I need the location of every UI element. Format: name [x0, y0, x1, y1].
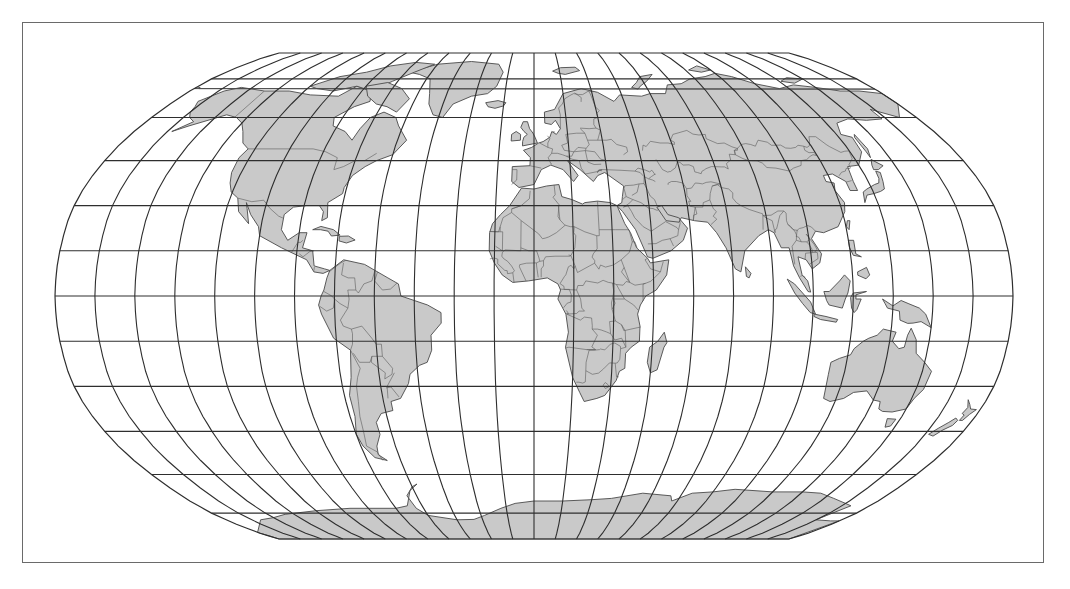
landmass-novaya-zemlya	[632, 74, 653, 89]
landmass-south-america	[319, 260, 442, 461]
landmass-ireland	[511, 132, 520, 142]
landmass-new-zealand-north	[959, 400, 976, 421]
landmass-taiwan	[846, 221, 850, 230]
graticule-layer	[55, 53, 1013, 539]
landmass-madagascar	[647, 332, 667, 373]
landmass-great-britain	[521, 122, 538, 146]
landmass-borneo	[824, 275, 850, 308]
world-map[interactable]	[0, 0, 1070, 589]
landmass-svalbard	[553, 67, 580, 74]
landmass-new-guinea	[883, 299, 932, 328]
landmass-tasmania	[885, 419, 896, 428]
landmass-philippines-mindanao	[858, 267, 870, 278]
landmass-sri-lanka	[745, 267, 751, 278]
landmass-java	[814, 314, 838, 322]
landmass-sumatra	[787, 279, 815, 314]
landmass-japan	[863, 171, 884, 203]
landmass-baffin-island	[366, 83, 409, 113]
landmass-new-zealand-south	[929, 418, 958, 436]
landmass-hispaniola	[339, 236, 355, 243]
landmass-north-america	[172, 86, 407, 273]
landmass-cuba	[313, 226, 340, 236]
landmass-greenland	[409, 62, 503, 118]
